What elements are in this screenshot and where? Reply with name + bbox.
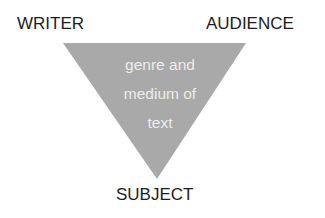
subject-label: SUBJECT: [116, 186, 193, 203]
center-text-line-1: genre and: [95, 50, 225, 79]
triangle-center-text: genre and medium of text: [95, 50, 225, 137]
center-text-line-2: medium of: [95, 79, 225, 108]
writer-label: WRITER: [17, 15, 84, 32]
audience-label: AUDIENCE: [206, 15, 294, 32]
center-text-line-3: text: [95, 108, 225, 137]
